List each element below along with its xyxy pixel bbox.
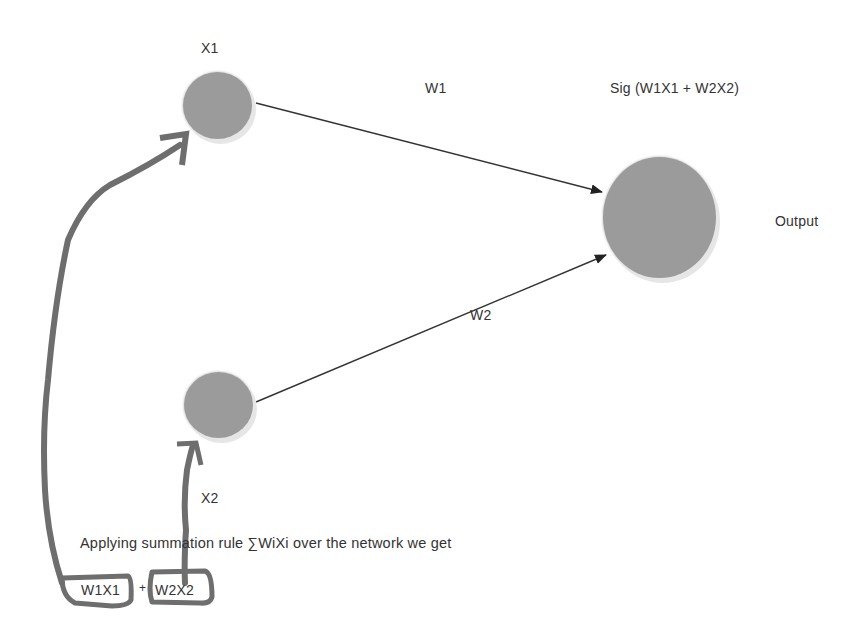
- annotation-term2: W2X2: [155, 582, 194, 598]
- annotation-text: Applying summation rule ∑WiXi over the n…: [80, 535, 452, 551]
- input-node-x2: [184, 372, 253, 438]
- label-activation: Sig (W1X1 + W2X2): [610, 80, 739, 96]
- output-node: [603, 157, 716, 278]
- edge-w1: [256, 103, 602, 192]
- label-x1: X1: [201, 40, 219, 56]
- annotation-term1: W1X1: [81, 582, 120, 598]
- annotation-plus: +: [139, 581, 146, 595]
- label-w2: W2: [470, 307, 491, 323]
- label-output: Output: [775, 213, 818, 229]
- label-x2: X2: [201, 490, 219, 506]
- input-node-x1: [183, 72, 252, 139]
- handdrawn-arrow-to-x1: [44, 145, 180, 583]
- edge-w2: [256, 255, 606, 402]
- label-w1: W1: [425, 80, 446, 96]
- handdrawn-arrow-to-x2: [185, 445, 193, 583]
